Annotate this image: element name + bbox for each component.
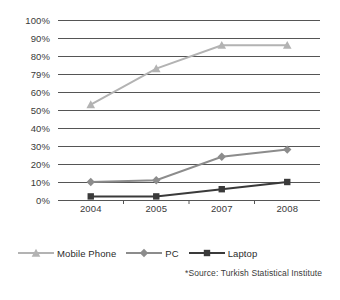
y-tick-label: 0% — [36, 195, 50, 206]
legend-triangle-icon — [18, 246, 54, 260]
data-point-marker — [219, 186, 225, 192]
y-tick-label: 40% — [31, 123, 50, 134]
y-axis: 100%90%80%79%60%50%40%30%20%10%0% — [0, 0, 55, 215]
series-line — [91, 45, 288, 104]
legend-item-pc[interactable]: PC — [126, 246, 178, 260]
data-point-marker — [218, 153, 226, 161]
data-point-marker — [140, 249, 148, 257]
data-point-marker — [283, 145, 291, 153]
x-tick-label: 2005 — [145, 203, 167, 214]
x-axis: 2004200520072008 — [58, 203, 320, 223]
legend-diamond-icon — [126, 246, 162, 260]
x-tick-label: 2008 — [276, 203, 298, 214]
data-point-marker — [204, 250, 210, 256]
legend-square-icon — [189, 246, 225, 260]
y-tick-label: 20% — [31, 159, 50, 170]
data-point-marker — [152, 176, 160, 184]
y-tick-label: 60% — [31, 87, 50, 98]
series-mobile-phone — [86, 41, 291, 108]
chart-legend: Mobile PhonePCLaptop — [18, 246, 267, 260]
data-point-marker — [284, 179, 290, 185]
series-line — [91, 150, 288, 182]
series-pc — [87, 145, 292, 186]
y-tick-label: 10% — [31, 177, 50, 188]
legend-label: PC — [165, 248, 178, 259]
legend-item-laptop[interactable]: Laptop — [189, 246, 258, 260]
y-tick-label: 90% — [31, 33, 50, 44]
x-tick-label: 2004 — [80, 203, 102, 214]
legend-label: Mobile Phone — [57, 248, 116, 259]
y-tick-label: 50% — [31, 105, 50, 116]
data-point-marker — [87, 178, 95, 186]
y-tick-label: 100% — [25, 15, 50, 26]
plot-area: 100%90%80%79%60%50%40%30%20%10%0% 200420… — [0, 0, 340, 215]
data-point-marker — [86, 100, 95, 108]
data-point-marker — [153, 193, 159, 199]
legend-label: Laptop — [228, 248, 258, 259]
x-tick-label: 2007 — [211, 203, 233, 214]
y-tick-label: 79% — [31, 69, 50, 80]
data-point-marker — [88, 193, 94, 199]
series-layer — [58, 0, 320, 215]
chart-container: 100%90%80%79%60%50%40%30%20%10%0% 200420… — [0, 0, 340, 300]
legend-item-mobile-phone[interactable]: Mobile Phone — [18, 246, 116, 260]
series-line — [91, 182, 288, 196]
y-tick-label: 30% — [31, 141, 50, 152]
y-tick-label: 80% — [31, 51, 50, 62]
source-note: *Source: Turkish Statistical Institute — [185, 268, 322, 278]
